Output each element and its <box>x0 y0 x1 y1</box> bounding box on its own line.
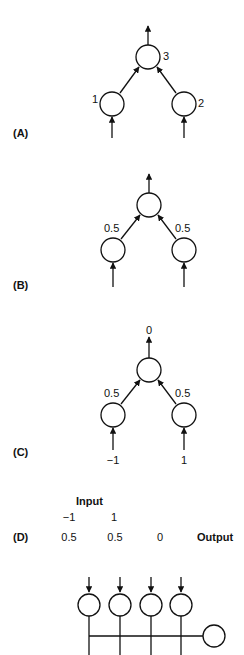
panel-label-b: (B) <box>13 280 28 291</box>
panel-d-network <box>78 577 225 655</box>
edge-left <box>121 215 140 239</box>
value-2: 0.5 <box>107 532 122 543</box>
panel-label-c: (C) <box>13 447 28 458</box>
value-3: 0 <box>157 532 163 543</box>
network-diagram <box>0 0 244 655</box>
node-input-left <box>101 403 125 427</box>
input-value-2: 1 <box>111 512 117 523</box>
node-output <box>136 45 160 69</box>
weight-right: 0.5 <box>175 388 190 399</box>
node-input-left <box>100 92 124 116</box>
node-output <box>137 193 161 217</box>
node-input-right <box>172 238 196 262</box>
edge-right <box>158 215 176 239</box>
input-value-left: −1 <box>107 455 120 466</box>
edge-right <box>158 380 176 404</box>
node-label-2: 2 <box>198 98 204 109</box>
node-input-right <box>172 403 196 427</box>
panel-label-d: (D) <box>13 532 28 543</box>
weight-left: 0.5 <box>104 388 119 399</box>
input-value-right: 1 <box>181 455 187 466</box>
node-label-1: 1 <box>92 94 98 105</box>
panel-label-a: (A) <box>13 128 28 139</box>
node-output <box>137 358 161 382</box>
edge-left <box>121 380 140 404</box>
output-value: 0 <box>146 325 152 336</box>
input-header: Input <box>76 496 103 507</box>
weight-left: 0.5 <box>104 223 119 234</box>
value-1: 0.5 <box>61 532 76 543</box>
panel-a-network <box>100 26 196 138</box>
edge-right <box>157 67 176 93</box>
node-input-right <box>172 92 196 116</box>
input-value-1: −1 <box>63 512 76 523</box>
node-input-left <box>101 238 125 262</box>
output-node <box>203 625 225 647</box>
edge-left <box>120 67 139 93</box>
weight-right: 0.5 <box>175 223 190 234</box>
output-header: Output <box>197 532 233 543</box>
node-label-3: 3 <box>163 51 169 62</box>
